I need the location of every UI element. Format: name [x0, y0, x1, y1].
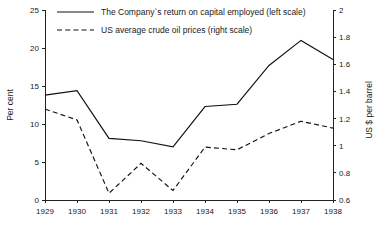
series-group — [45, 40, 333, 193]
left-axis-tick-labels: 0510152025 — [30, 6, 39, 205]
left-tick-label: 25 — [30, 6, 39, 15]
left-axis-title: Per cent — [5, 89, 15, 121]
chart-legend: The Company`s return on capital employed… — [57, 7, 306, 35]
chart-container: 0510152025 0.60.811.21.41.61.82 19291930… — [0, 0, 385, 226]
right-tick-label: 1.2 — [339, 115, 351, 124]
right-tick-label: 1.4 — [339, 87, 351, 96]
x-tick-label: 1938 — [324, 207, 342, 216]
left-tick-label: 0 — [35, 196, 40, 205]
left-tick-label: 20 — [30, 44, 39, 53]
right-tick-label: 0.8 — [339, 169, 351, 178]
x-tick-label: 1936 — [260, 207, 278, 216]
legend-label-company-return: The Company`s return on capital employed… — [101, 7, 306, 17]
x-tick-label: 1935 — [228, 207, 246, 216]
legend-label-oil-prices: US average crude oil prices (right scale… — [101, 25, 252, 35]
x-tick-label: 1934 — [196, 207, 214, 216]
right-tick-label: 1 — [339, 142, 344, 151]
x-tick-label: 1933 — [164, 207, 182, 216]
series-oil-prices — [45, 109, 333, 193]
axes-group — [45, 10, 333, 200]
right-tick-label: 2 — [339, 6, 344, 15]
right-tick-label: 1.8 — [339, 33, 351, 42]
x-tick-label: 1932 — [132, 207, 150, 216]
left-tick-label: 15 — [30, 82, 39, 91]
line-chart: 0510152025 0.60.811.21.41.61.82 19291930… — [0, 0, 385, 226]
right-axis-tick-labels: 0.60.811.21.41.61.82 — [339, 6, 351, 205]
right-axis-title: US $ per barrel — [364, 81, 374, 139]
right-tick-label: 0.6 — [339, 196, 351, 205]
x-tick-label: 1929 — [36, 207, 54, 216]
x-tick-label: 1931 — [100, 207, 118, 216]
right-tick-label: 1.6 — [339, 60, 351, 69]
x-tick-label: 1937 — [292, 207, 310, 216]
series-company-return — [45, 40, 333, 146]
left-tick-label: 10 — [30, 120, 39, 129]
left-tick-label: 5 — [35, 158, 40, 167]
x-tick-label: 1930 — [68, 207, 86, 216]
x-axis-tick-labels: 1929193019311932193319341935193619371938 — [36, 207, 342, 216]
